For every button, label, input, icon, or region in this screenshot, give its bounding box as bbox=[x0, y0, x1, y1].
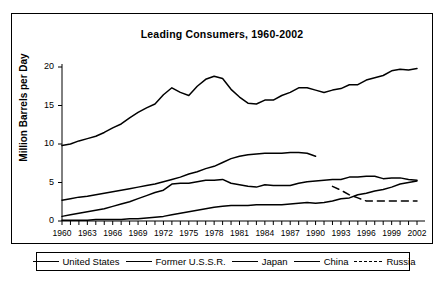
legend-item: Former U.S.S.R. bbox=[122, 256, 228, 267]
legend-line-swatch bbox=[294, 261, 320, 262]
series-line bbox=[62, 69, 417, 146]
legend-line-swatch bbox=[33, 261, 59, 262]
legend-line-swatch bbox=[126, 261, 152, 262]
plot-area bbox=[12, 14, 432, 243]
legend-label: China bbox=[324, 256, 351, 267]
series-line bbox=[62, 176, 417, 216]
legend-item: Japan bbox=[228, 256, 290, 267]
legend-line-swatch bbox=[354, 261, 382, 262]
series-line bbox=[62, 181, 417, 220]
legend-line-swatch bbox=[232, 261, 258, 262]
chart-page: Leading Consumers, 1960-2002 Million Bar… bbox=[0, 0, 445, 285]
legend-label: United States bbox=[63, 256, 122, 267]
legend-label: Russia bbox=[386, 256, 417, 267]
legend-item: China bbox=[290, 256, 351, 267]
legend-item: Russia bbox=[350, 256, 417, 267]
legend-item: United States bbox=[29, 256, 122, 267]
chart-legend: United StatesFormer U.S.S.R.JapanChinaRu… bbox=[36, 252, 410, 271]
chart-frame: Leading Consumers, 1960-2002 Million Bar… bbox=[11, 13, 433, 244]
series-line bbox=[62, 152, 316, 200]
legend-label: Japan bbox=[262, 256, 290, 267]
legend-label: Former U.S.S.R. bbox=[156, 256, 228, 267]
